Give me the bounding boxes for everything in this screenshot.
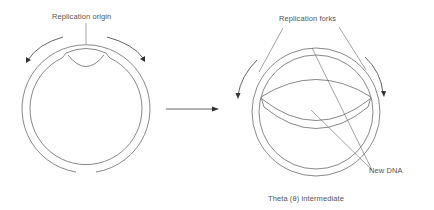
left-outer-strand [22, 45, 150, 172]
left-arrow-cw [107, 37, 143, 58]
fork-leader-right [339, 27, 366, 70]
transition-arrow [166, 107, 219, 112]
left-bubble-join-left [62, 53, 66, 58]
left-bubble-join-right [106, 53, 110, 58]
left-bubble-bottom [68, 55, 104, 67]
left-arrow-ccw-head [26, 57, 31, 63]
right-fork-right [368, 97, 371, 107]
new-dna-label: New DNA [369, 166, 403, 175]
theta-replication-diagram [0, 0, 434, 210]
replication-origin-label: Replication origin [52, 12, 111, 21]
right-outer-inner-strand [259, 55, 373, 169]
theta-intermediate-caption: Theta (θ) intermediate [268, 194, 344, 203]
transition-arrow-head [212, 107, 219, 112]
left-inner-strand [30, 58, 142, 165]
left-bubble-top [66, 49, 106, 54]
new-dna-leader-1 [312, 48, 372, 170]
left-arrow-ccw [28, 37, 63, 60]
right-arrow-ccw-head [236, 93, 241, 99]
fork-leader-left [259, 28, 283, 72]
right-upper-arc-outer [261, 80, 371, 98]
new-dna-leader-2 [311, 110, 372, 170]
right-arrow-cw-head [381, 91, 386, 97]
right-theta-structure [252, 48, 380, 176]
right-arrow-ccw [238, 60, 257, 95]
replication-forks-label: Replication forks [279, 14, 336, 23]
left-direction-arrows [26, 37, 145, 63]
left-circular-dna [22, 45, 150, 172]
right-fork-left [261, 97, 264, 107]
